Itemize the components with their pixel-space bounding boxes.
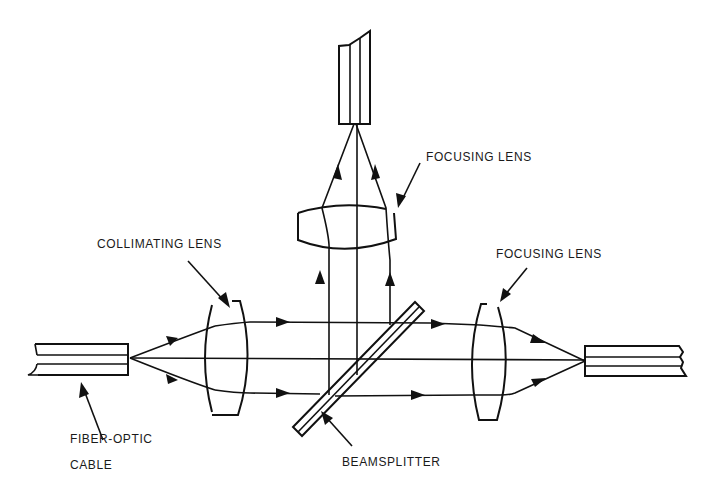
collimating-lens-label: COLLIMATING LENS [97, 237, 222, 251]
output-fiber-cable-top [339, 31, 370, 124]
reflected-rays [322, 124, 390, 395]
beamsplitter-label: BEAMSPLITTER [342, 455, 441, 469]
fiber-optic-label-line2: CABLE [70, 458, 112, 472]
focusing-lens-top-label: FOCUSING LENS [426, 150, 532, 164]
focusing-lens-right [472, 304, 506, 420]
focusing-lens-right-label: FOCUSING LENS [496, 247, 602, 261]
label-pointers [79, 163, 527, 446]
ray-arrowheads [166, 164, 546, 400]
output-fiber-cable-right [585, 346, 686, 376]
beamsplitter-diagram: COLLIMATING LENS FOCUSING LENS FOCUSING … [0, 0, 709, 495]
input-fiber-cable [28, 344, 128, 375]
fiber-optic-label-line1: FIBER-OPTIC [70, 432, 153, 446]
focusing-lens-top [298, 205, 396, 248]
